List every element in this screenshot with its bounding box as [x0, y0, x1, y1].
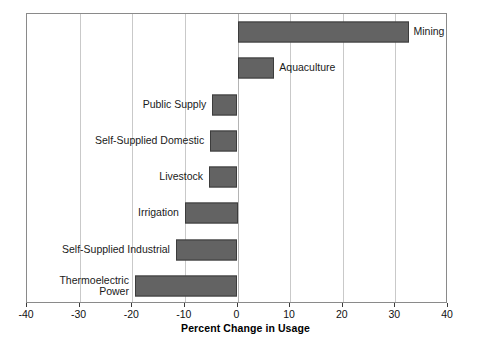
- bar-row: Self-Supplied Domestic: [27, 123, 446, 159]
- x-tick-label: -10: [176, 308, 191, 320]
- x-tick-mark: [289, 303, 290, 307]
- bar-row: Public Supply: [27, 87, 446, 123]
- x-tick-mark: [237, 303, 238, 307]
- x-tick-label: -40: [18, 308, 33, 320]
- category-label: Aquaculture: [274, 63, 335, 75]
- bar[interactable]: [238, 22, 409, 43]
- x-tick-mark: [79, 303, 80, 307]
- chart-figure: MiningAquaculturePublic SupplySelf-Suppl…: [0, 0, 491, 347]
- bar[interactable]: [212, 94, 237, 115]
- x-tick-label: 10: [283, 308, 295, 320]
- bar-row: Aquaculture: [27, 50, 446, 86]
- x-tick-mark: [447, 303, 448, 307]
- x-tick-label: 20: [336, 308, 348, 320]
- bar[interactable]: [176, 239, 238, 260]
- category-label: Mining: [409, 26, 445, 38]
- bar-row: Livestock: [27, 159, 446, 195]
- x-tick-label: 30: [389, 308, 401, 320]
- category-label: Self-Supplied Domestic: [95, 135, 208, 147]
- category-label: Irrigation: [138, 208, 183, 220]
- category-label: Thermoelectric Power: [59, 274, 132, 297]
- bar[interactable]: [135, 275, 238, 296]
- x-tick-label: -30: [71, 308, 86, 320]
- x-tick-label: -20: [124, 308, 139, 320]
- x-tick-mark: [26, 303, 27, 307]
- bar[interactable]: [185, 203, 238, 224]
- x-tick-mark: [394, 303, 395, 307]
- x-tick-mark: [342, 303, 343, 307]
- category-label: Self-Supplied Industrial: [62, 244, 174, 256]
- x-tick-label: 40: [441, 308, 453, 320]
- x-tick-mark: [184, 303, 185, 307]
- x-axis-title: Percent Change in Usage: [0, 322, 491, 334]
- plot-area: MiningAquaculturePublic SupplySelf-Suppl…: [26, 13, 447, 303]
- bar[interactable]: [238, 58, 275, 79]
- category-label: Public Supply: [143, 99, 211, 111]
- bar-row: Irrigation: [27, 195, 446, 231]
- x-tick-mark: [131, 303, 132, 307]
- bar-row: Thermoelectric Power: [27, 268, 446, 304]
- bar-row: Mining: [27, 14, 446, 50]
- bar-row: Self-Supplied Industrial: [27, 232, 446, 268]
- bar[interactable]: [209, 167, 237, 188]
- bar[interactable]: [210, 130, 237, 151]
- category-label: Livestock: [159, 171, 207, 183]
- x-tick-label: 0: [234, 308, 240, 320]
- bar-series: MiningAquaculturePublic SupplySelf-Suppl…: [27, 14, 446, 302]
